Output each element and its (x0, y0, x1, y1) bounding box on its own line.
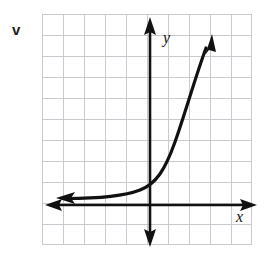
graph-figure: v (0, 0, 271, 260)
coordinate-plane-graph: y x (0, 0, 271, 260)
y-axis-label: y (161, 29, 171, 47)
x-axis-label: x (235, 208, 243, 225)
